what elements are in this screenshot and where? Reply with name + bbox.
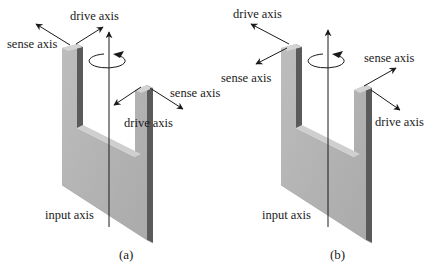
drive-axis-label-top: drive axis <box>70 9 119 23</box>
input-axis-label: input axis <box>262 208 311 222</box>
sense-axis-label-right: sense axis <box>170 86 220 100</box>
panel-a: drive axis sense axis sense axis drive a… <box>7 9 220 262</box>
sense-axis-label-top: sense axis <box>221 71 271 85</box>
panel-b: drive axis sense axis sense axis drive a… <box>221 7 424 262</box>
drive-axis-label-top: drive axis <box>233 7 282 21</box>
right-tine-side-face <box>147 85 153 243</box>
panel-caption-a: (a) <box>119 247 133 262</box>
drive-axis-label-right: drive axis <box>375 115 424 129</box>
right-tine-side-face <box>366 85 372 243</box>
sense-axis-arrow-right <box>364 68 396 86</box>
left-tine-side-face <box>296 44 302 128</box>
left-tine-side-face <box>77 44 83 128</box>
drive-axis-arrow-right <box>371 90 400 110</box>
panel-caption-b: (b) <box>330 247 345 262</box>
drive-axis-arrow-top <box>76 27 103 44</box>
drive-axis-arrow-top <box>251 24 289 44</box>
tuning-fork-gyroscope-figure: drive axis sense axis sense axis drive a… <box>0 0 428 267</box>
sense-axis-label-right: sense axis <box>364 51 414 65</box>
input-axis-label: input axis <box>45 208 94 222</box>
sense-axis-label-top: sense axis <box>7 37 57 51</box>
drive-axis-label-right: drive axis <box>124 116 173 130</box>
